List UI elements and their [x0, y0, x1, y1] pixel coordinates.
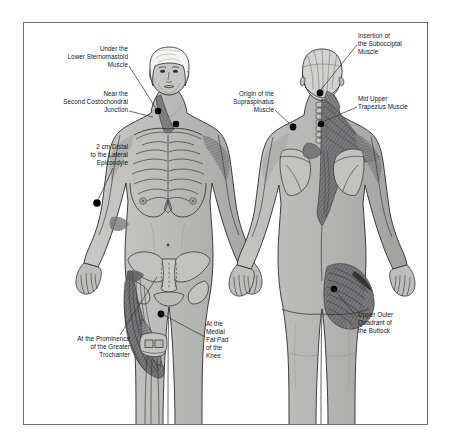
label-lower-sternomastoid: Under the Lower Sternomastoid Muscle — [18, 45, 128, 69]
label-suboccipital: Insertion of the Subocciptal Muscle — [358, 32, 446, 56]
label-second-costochondral: Near the Second Costochondral Junction — [14, 90, 128, 114]
label-upper-outer-buttock: Upper Outer Quadrant of the Buttock — [358, 311, 436, 335]
leader-supraspinatus — [275, 110, 292, 126]
leader-greater-trochanter — [120, 277, 157, 335]
leader-upper-outer-buttock — [333, 288, 357, 317]
label-lateral-epicondyle: 2 cm Distal to the Lateral Epicondyle — [32, 143, 128, 167]
label-supraspinatus: Origin of the Supraspinatus Muscle — [196, 90, 274, 114]
leader-lateral-epicondyle — [98, 168, 113, 200]
label-mid-upper-trapezius: Mid Upper Trapezius Muscle — [358, 95, 448, 111]
leader-medial-fat-pad-knee — [160, 313, 205, 337]
label-medial-fat-pad-knee: At the Medial Fat Pad of the Knee — [206, 320, 260, 360]
leader-suboccipital — [319, 45, 357, 92]
label-greater-trochanter: At the Prominence of the Greater Trochan… — [30, 335, 130, 359]
leader-second-costochondral — [129, 111, 153, 117]
tender-point-diagram-page: Under the Lower Sternomastoid Muscle Nea… — [0, 0, 452, 447]
leader-mid-upper-trapezius — [320, 107, 357, 123]
leader-lower-sternomastoid — [129, 66, 157, 110]
